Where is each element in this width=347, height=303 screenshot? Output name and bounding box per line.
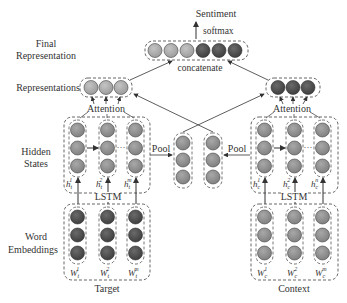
target-word-embeddings: Wt1 Wt2 Wtm [64, 204, 150, 280]
svg-text:Wt2: Wt2 [100, 266, 110, 279]
svg-text:Embeddings: Embeddings [8, 244, 58, 255]
pool-context-to-target-rep-arrow [134, 94, 213, 132]
pooled-target-vector [174, 133, 192, 188]
final-representation-vector [145, 41, 248, 60]
hidden-states-label: Hidden States [21, 146, 50, 169]
svg-text:Wt1: Wt1 [70, 266, 80, 279]
svg-text:Wc1: Wc1 [257, 266, 268, 279]
pool-left-label: Pool [152, 143, 171, 154]
ellipsis: ··· [117, 142, 126, 152]
pooled-context-vector [204, 133, 222, 188]
svg-text:Hidden: Hidden [21, 146, 50, 157]
ian-architecture-diagram: Sentiment softmax Final Representation c… [0, 0, 347, 303]
concat-arrow-left [130, 61, 172, 80]
svg-text:hc2: hc2 [283, 177, 291, 190]
target-label: Target [94, 283, 119, 294]
softmax-label: softmax [203, 26, 234, 36]
svg-text:ht1: ht1 [66, 177, 73, 190]
final-representation-label: Final Representation [16, 38, 76, 61]
context-word-embeddings: Wc1 Wc2 Wcm [251, 204, 338, 280]
svg-text:htm: htm [124, 177, 132, 190]
svg-text:ht2: ht2 [96, 177, 103, 190]
svg-text:Representation: Representation [16, 50, 76, 61]
context-label: Context [278, 283, 310, 294]
svg-text:States: States [24, 158, 48, 169]
target-representation [80, 78, 132, 97]
svg-text:hcn: hcn [311, 177, 319, 190]
svg-text:···: ··· [304, 142, 313, 152]
sentiment-label: Sentiment [196, 8, 237, 19]
attention-left-label: Attention [87, 103, 125, 114]
word-embeddings-label: Word Embeddings [8, 231, 58, 255]
context-representation [266, 78, 320, 97]
pool-right-label: Pool [228, 143, 247, 154]
svg-text:Word: Word [25, 231, 47, 242]
concat-arrow-right [228, 61, 268, 80]
representations-label: Representations [16, 82, 80, 93]
sentiment-output: Sentiment softmax [196, 8, 237, 39]
context-attention: Attention [266, 97, 320, 118]
target-attention: Attention [80, 97, 134, 118]
lstm-left-label: LSTM [95, 191, 122, 202]
attention-right-label: Attention [273, 103, 311, 114]
lstm-right-label: LSTM [281, 191, 308, 202]
svg-text:hc1: hc1 [253, 177, 261, 190]
concatenate-label: concatenate [178, 63, 223, 73]
svg-text:Wc2: Wc2 [287, 266, 298, 279]
svg-text:Final: Final [36, 38, 57, 49]
pool-target-to-context-rep-arrow [183, 94, 264, 132]
